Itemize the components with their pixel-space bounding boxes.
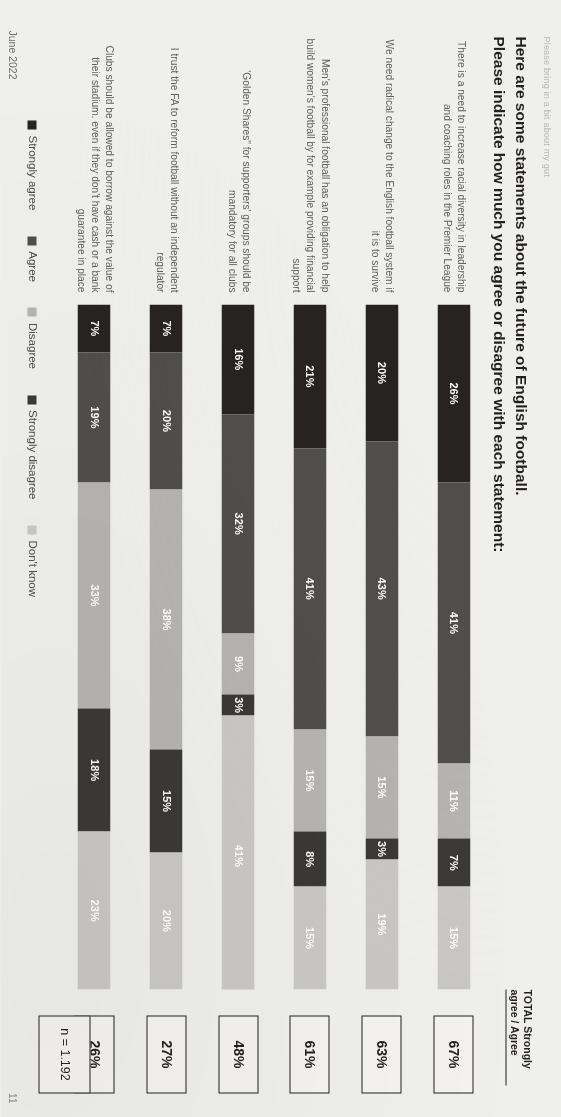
- chart-row-label: I trust the FA to reform football withou…: [152, 36, 180, 304]
- bar-segment-agree: 20%: [149, 352, 182, 489]
- chart-row: Clubs should be allowed to borrow agains…: [58, 36, 130, 1093]
- bar-segment-value: 3%: [375, 841, 387, 857]
- chart-row-label: 'Golden Shares" for supporters' groups s…: [224, 36, 252, 304]
- legend-swatch-icon: [28, 236, 37, 245]
- chart-row: Men's professional football has an oblig…: [274, 36, 346, 1093]
- bar-segment-dont-know: 15%: [293, 886, 326, 989]
- bar-segment-value: 43%: [375, 577, 387, 599]
- legend-swatch-icon: [28, 395, 37, 404]
- legend-item[interactable]: Strongly agree: [26, 120, 38, 210]
- bar-segment-value: 32%: [232, 512, 244, 534]
- bar-segment-value: 7%: [160, 320, 172, 336]
- bar-segment-dont-know: 23%: [77, 831, 110, 989]
- bar-segment-value: 41%: [447, 611, 459, 633]
- stacked-bar: 7%20%38%15%20%: [149, 304, 182, 989]
- total-agree-box: 67%: [433, 1015, 473, 1093]
- legend-item[interactable]: Disagree: [26, 307, 38, 368]
- bar-segment-dont-know: 19%: [365, 859, 398, 989]
- legend-label: Agree: [26, 251, 38, 282]
- bar-segment-strongly-disagree: 3%: [221, 694, 254, 715]
- bar-segment-value: 41%: [232, 844, 244, 866]
- bar-segment-agree: 19%: [77, 352, 110, 482]
- bar-segment-value: 33%: [88, 584, 100, 606]
- chart-row: There is a need to increase racial diver…: [417, 36, 489, 1093]
- bar-segment-strongly-agree: 7%: [77, 304, 110, 352]
- chart-row-label: We need radical change to the English fo…: [367, 36, 395, 304]
- bar-segment-disagree: 9%: [221, 633, 254, 695]
- legend-label: Strongly disagree: [26, 410, 38, 500]
- stacked-bar-chart: There is a need to increase racial diver…: [58, 36, 489, 1093]
- bar-segment-strongly-disagree: 18%: [77, 708, 110, 831]
- bar-segment-value: 20%: [160, 409, 172, 431]
- legend-item[interactable]: Agree: [26, 236, 38, 282]
- legend-label: Strongly agree: [26, 135, 38, 210]
- bar-segment-agree: 32%: [221, 414, 254, 633]
- bar-segment-value: 15%: [447, 926, 459, 948]
- bar-segment-value: 19%: [88, 406, 100, 428]
- bar-segment-value: 9%: [232, 656, 244, 672]
- total-agree-box: 61%: [289, 1015, 329, 1093]
- bar-segment-strongly-disagree: 15%: [149, 749, 182, 852]
- bar-segment-value: 7%: [447, 854, 459, 870]
- total-column-header-line-1: TOTAL Strongly: [520, 989, 533, 1085]
- slide-title: Here are some statements about the futur…: [487, 36, 531, 756]
- bar-segment-value: 15%: [375, 776, 387, 798]
- bar-segment-value: 8%: [303, 851, 315, 867]
- slide-title-line-2: Please indicate how much you agree or di…: [487, 36, 509, 756]
- bar-segment-dont-know: 20%: [149, 852, 182, 989]
- chart-row-label: Clubs should be allowed to borrow agains…: [73, 36, 115, 304]
- bar-segment-value: 26%: [447, 382, 459, 404]
- chart-row: 'Golden Shares" for supporters' groups s…: [202, 36, 274, 1093]
- stacked-bar: 20%43%15%3%19%: [365, 304, 398, 989]
- bar-segment-value: 23%: [88, 899, 100, 921]
- total-column-header: TOTAL Strongly agree / Agree: [505, 989, 533, 1085]
- bar-segment-agree: 43%: [365, 441, 398, 736]
- slide-kicker: Please bring in a bit about my gut: [541, 36, 551, 176]
- stacked-bar: 7%19%33%18%23%: [77, 304, 110, 989]
- bar-segment-value: 38%: [160, 608, 172, 630]
- bar-segment-value: 11%: [447, 790, 459, 812]
- slide-title-line-1: Here are some statements about the futur…: [509, 36, 531, 756]
- bar-segment-agree: 41%: [437, 482, 470, 763]
- legend-label: Disagree: [26, 322, 38, 368]
- bar-segment-value: 3%: [232, 697, 244, 713]
- bar-segment-value: 15%: [303, 926, 315, 948]
- bar-segment-disagree: 15%: [293, 729, 326, 832]
- bar-segment-strongly-agree: 16%: [221, 304, 254, 414]
- bar-segment-disagree: 11%: [437, 763, 470, 838]
- legend-item[interactable]: Strongly disagree: [26, 395, 38, 500]
- legend-item[interactable]: Don't know: [26, 525, 38, 597]
- total-agree-box: 48%: [218, 1015, 258, 1093]
- bar-segment-disagree: 33%: [77, 482, 110, 708]
- bar-segment-strongly-agree: 26%: [437, 304, 470, 482]
- bar-segment-strongly-disagree: 7%: [437, 838, 470, 886]
- bar-segment-value: 16%: [232, 348, 244, 370]
- total-agree-box: 27%: [146, 1015, 186, 1093]
- legend-swatch-icon: [28, 120, 37, 129]
- bar-segment-value: 18%: [88, 759, 100, 781]
- legend-swatch-icon: [28, 525, 37, 534]
- bar-segment-strongly-disagree: 8%: [293, 831, 326, 886]
- legend-swatch-icon: [28, 307, 37, 316]
- bar-segment-dont-know: 41%: [221, 715, 254, 989]
- page-number: 11: [6, 1093, 17, 1103]
- stacked-bar: 21%41%15%8%15%: [293, 304, 326, 989]
- bar-segment-value: 15%: [303, 769, 315, 791]
- bar-segment-disagree: 38%: [149, 489, 182, 749]
- bar-segment-strongly-disagree: 3%: [365, 838, 398, 859]
- bar-segment-value: 19%: [375, 913, 387, 935]
- chart-legend: Strongly agreeAgreeDisagreeStrongly disa…: [26, 120, 38, 597]
- bar-segment-value: 15%: [160, 789, 172, 811]
- stacked-bar: 16%32%9%3%41%: [221, 304, 254, 989]
- chart-row-label: Men's professional football has an oblig…: [288, 36, 330, 304]
- bar-segment-value: 41%: [303, 577, 315, 599]
- chart-row: I trust the FA to reform football withou…: [130, 36, 202, 1093]
- chart-row-label: There is a need to increase racial diver…: [439, 36, 467, 304]
- bar-segment-disagree: 15%: [365, 736, 398, 839]
- bar-segment-strongly-agree: 20%: [365, 304, 398, 441]
- total-column-header-line-2: agree / Agree: [507, 989, 520, 1085]
- slide-canvas: Please bring in a bit about my gut Here …: [0, 0, 561, 1117]
- bar-segment-agree: 41%: [293, 448, 326, 729]
- bar-segment-value: 21%: [303, 365, 315, 387]
- footer-date: June 2022: [6, 30, 18, 79]
